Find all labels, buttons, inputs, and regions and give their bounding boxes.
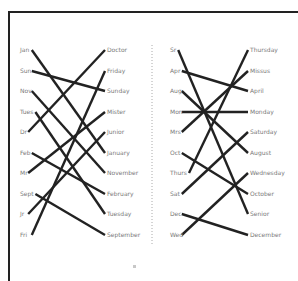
left-panel-left-label: Jr [19,210,25,218]
left-panel-right-label: Sunday [107,87,130,95]
left-panel-right-label: Junior [106,128,125,136]
right-panel-right-label: Missus [250,67,270,74]
connector-line [32,71,105,235]
left-panel-left-label: Feb [20,149,31,156]
connector-line [28,132,105,214]
right-panel-right-label: Saturday [250,128,277,136]
right-panel-left-label: Sr [170,46,177,53]
right-panel-right-label: Senior [250,210,270,217]
left-panel-right-label: Tuesday [106,210,132,218]
footer-mark [133,265,136,268]
connector-lines [28,50,248,235]
right-panel-left-label: Wed [170,231,183,238]
right-panel-left-label: Mon [170,108,183,115]
left-panel-right-label: January [106,149,130,157]
left-panel-left-label: Nov [20,87,32,94]
right-panel-right-label: August [250,149,272,157]
left-panel-right-label: Friday [107,67,126,75]
left-panel-left-label: Jan [19,46,29,54]
left-panel-right-label: Doctor [107,46,128,53]
right-panel-left-label: Apr [170,67,181,75]
left-panel-left-label: Tues [19,108,33,115]
left-panel-right-label: Mister [107,108,126,115]
right-panel-left-label: Oct [170,149,181,156]
left-panel-right-label: September [107,231,141,239]
left-panel-left-label: Mr [20,169,28,176]
connector-line [182,153,248,194]
right-panel-right-label: April [250,87,264,95]
connector-line [182,132,248,194]
left-panel-left-label: Fri [20,231,27,238]
right-panel-right-label: October [250,190,275,197]
left-panel-left-label: Sept [20,190,34,198]
left-panel-left-label: Dr [20,128,28,135]
right-panel-left-label: Mrs [170,128,181,135]
right-panel-left-label: Dec [170,210,182,217]
right-panel-left-label: Sat [170,190,180,197]
right-panel-right-label: December [250,231,282,238]
right-panel-right-label: Thursday [249,46,278,54]
left-panel-right-label: November [107,169,139,176]
right-panel-right-label: Wednesday [250,169,285,177]
left-panel-right-label: February [107,190,134,198]
right-panel-left-label: Aug [170,87,182,95]
right-panel-left-label: Thurs [169,169,187,176]
right-panel-right-label: Monday [250,108,274,116]
left-panel-left-label: Sun [20,67,32,74]
